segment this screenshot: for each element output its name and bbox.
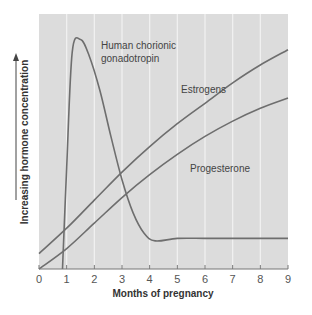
x-axis-title: Months of pregnancy xyxy=(112,288,214,299)
x-tick-label: 3 xyxy=(119,273,125,285)
x-tick-label: 8 xyxy=(257,273,263,285)
y-axis-title: Increasing hormone concentration xyxy=(19,60,30,224)
label-estrogens: Estrogens xyxy=(181,84,226,95)
x-tick-label: 4 xyxy=(147,273,153,285)
x-tick-label: 0 xyxy=(36,273,42,285)
x-tick-label: 2 xyxy=(91,273,97,285)
x-tick-label: 9 xyxy=(285,273,291,285)
hormone-chart: 0123456789 Months of pregnancy Increasin… xyxy=(0,0,312,315)
x-tick-label: 5 xyxy=(174,273,180,285)
label-hcg-line1: Human chorionic xyxy=(101,40,176,51)
label-hcg-line2: gonadotropin xyxy=(101,53,159,64)
x-tick-label: 6 xyxy=(202,273,208,285)
plot-background xyxy=(39,14,288,269)
x-tick-label: 7 xyxy=(230,273,236,285)
x-tick-label: 1 xyxy=(64,273,70,285)
label-progesterone: Progesterone xyxy=(190,163,250,174)
